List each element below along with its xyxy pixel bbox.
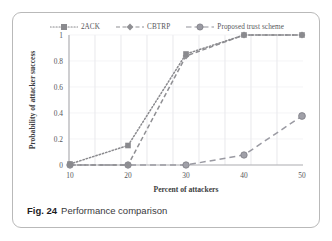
x-tick-label-50: 50 [298, 171, 306, 180]
chart-plot-area: 0 0.2 0.4 0.6 0.8 1 10 20 30 40 50 Perce… [13, 13, 321, 229]
y-axis-title: Probability of attacker success [28, 51, 37, 150]
x-tick-label-40: 40 [240, 171, 248, 180]
series-proposed-trust-scheme [67, 113, 306, 169]
y-tick-label-0: 0 [59, 161, 63, 170]
y-tick-label-1: 1 [59, 31, 63, 40]
series-2ack [67, 32, 305, 167]
grid-vertical [69, 35, 277, 165]
figure-card: 2ACK CBTRP Proposed trust scheme [12, 12, 320, 228]
y-tick-labels: 0 0.2 0.4 0.6 0.8 1 [54, 31, 64, 170]
y-tick-label-06: 0.6 [54, 83, 64, 92]
x-tick-label-10: 10 [66, 171, 74, 180]
x-tick-labels: 10 20 30 40 50 [66, 171, 306, 180]
y-tick-label-02: 0.2 [54, 135, 64, 144]
x-tick-label-20: 20 [124, 171, 132, 180]
figure-caption-text: Performance comparison [61, 205, 167, 216]
x-tick-label-30: 30 [182, 171, 190, 180]
x-axis-title: Percent of attackers [154, 185, 219, 194]
figure-caption: Fig. 24 Performance comparison [27, 199, 313, 221]
y-tick-label-04: 0.4 [54, 109, 64, 118]
y-tick-label-08: 0.8 [54, 57, 64, 66]
figure-number: Fig. 24 [27, 205, 57, 216]
